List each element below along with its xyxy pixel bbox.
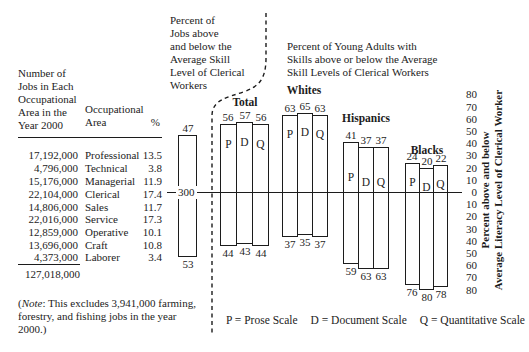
legend-item-prose: P = Prose Scale — [226, 314, 298, 327]
scale-letter-d: D — [301, 126, 309, 139]
value-label: 20 — [422, 156, 433, 167]
value-label: 37 — [285, 239, 296, 250]
value-label: 22 — [436, 153, 447, 164]
bar-blacks-quantitative: Q — [433, 165, 448, 287]
scale-letter-p: P — [225, 138, 231, 151]
bar-total-document: D — [236, 122, 253, 244]
value-label: 37 — [315, 239, 326, 250]
legend: P = Prose Scale D = Document Scale Q = Q… — [226, 314, 525, 327]
value-label: 63 — [315, 103, 326, 114]
table-row: 4,796,000 Technical 3.8 — [18, 162, 162, 175]
table-header-percent: % — [130, 116, 160, 129]
bar-hispanics-document: D — [358, 147, 374, 269]
table-row: 12,859,000 Operative 10.1 — [18, 226, 162, 239]
jobs-count: 15,176,000 — [18, 175, 78, 188]
table-row: 4,373,000 Laborer 3.4 — [18, 251, 162, 264]
y-axis-tick: 80 — [466, 284, 477, 296]
y-axis-tick: 10 — [466, 174, 477, 186]
table-row: 17,192,000 Professional 13.5 — [18, 149, 162, 162]
percent-share: 3.8 — [132, 162, 162, 175]
bar-jobs-above-value: 47 — [183, 123, 194, 134]
value-label: 41 — [346, 130, 357, 141]
legend-item-quantitative: Q = Quantitative Scale — [420, 314, 525, 327]
figure: Number of Jobs in Each Occupational Area… — [0, 0, 529, 352]
value-label: 43 — [240, 246, 251, 257]
y-axis-label: Percent above and below Average Literacy… — [479, 60, 507, 320]
value-label: 35 — [300, 237, 311, 248]
zero-reference-line — [167, 192, 462, 193]
y-axis-tick: 20 — [466, 162, 477, 174]
value-label: 76 — [407, 287, 418, 298]
jobs-count: 22,104,000 — [18, 188, 78, 201]
scale-letter-p: P — [287, 128, 293, 141]
footnote-note-word: Note — [22, 297, 43, 309]
y-axis-tick: 30 — [466, 223, 477, 235]
y-axis-tick: 50 — [466, 247, 477, 259]
bar-whites-quantitative: Q — [312, 115, 328, 237]
bar-whites-prose: P — [282, 115, 298, 237]
jobs-count: 4,796,000 — [18, 162, 78, 175]
footnote-text: : This excludes 3,941,000 farming, fores… — [18, 297, 196, 335]
occupational-area: Operative — [85, 226, 128, 239]
table-row: 22,016,000 Service 17.3 — [18, 213, 162, 226]
bar-blacks-prose: P — [405, 163, 420, 285]
jobs-count: 12,859,000 — [18, 226, 78, 239]
y-axis-tick: 30 — [466, 149, 477, 161]
occupational-area: Clerical — [85, 188, 120, 201]
left-chart-title: Percent of Jobs above and below the Aver… — [170, 14, 280, 92]
scale-letter-q: Q — [256, 138, 264, 151]
value-label: 65 — [300, 101, 311, 112]
bar-whites-document: D — [297, 113, 313, 235]
percent-share: 13.5 — [132, 149, 162, 162]
jobs-count: 17,192,000 — [18, 149, 78, 162]
footnote: (Note: This excludes 3,941,000 farming, … — [18, 297, 204, 336]
group-label-hispanics: Hispanics — [342, 112, 390, 125]
occupational-area: Laborer — [85, 251, 120, 264]
scale-letter-q: Q — [316, 128, 324, 141]
y-axis-tick: 60 — [466, 259, 477, 271]
value-label: 44 — [223, 248, 234, 259]
value-label: 37 — [376, 135, 387, 146]
value-label: 44 — [256, 248, 267, 259]
value-label: 63 — [361, 271, 372, 282]
scale-letter-p: P — [348, 171, 354, 184]
y-axis-tick: 40 — [466, 235, 477, 247]
percent-share: 17.3 — [132, 213, 162, 226]
value-label: 24 — [407, 151, 418, 162]
occupational-area: Managerial — [85, 175, 135, 188]
percent-share: 17.4 — [132, 188, 162, 201]
bar-hispanics-quantitative: Q — [373, 147, 389, 269]
legend-item-document: D = Document Scale — [311, 314, 407, 327]
percent-share: 3.4 — [132, 251, 162, 264]
scale-letter-q: Q — [377, 176, 385, 189]
bar-hispanics-prose: P — [343, 142, 359, 264]
y-axis-ticks: 807060504030201001020304050607080 — [450, 0, 477, 352]
bar-blacks-document: D — [419, 168, 434, 290]
value-label: 80 — [422, 292, 433, 303]
table-header-rule — [18, 137, 162, 138]
y-axis-tick: 70 — [466, 271, 477, 283]
y-axis-tick: 80 — [466, 88, 477, 100]
value-label: 37 — [361, 135, 372, 146]
value-label: 78 — [436, 289, 447, 300]
percent-share: 10.1 — [132, 226, 162, 239]
percent-share: 11.9 — [132, 175, 162, 188]
scale-letter-p: P — [409, 176, 415, 189]
value-label: 56 — [223, 112, 234, 123]
bar-total-quantitative: Q — [252, 124, 269, 246]
y-axis-tick: 60 — [466, 113, 477, 125]
occupational-area: Technical — [85, 162, 128, 175]
reference-score-label: 300 — [176, 186, 197, 199]
y-axis-tick: 50 — [466, 125, 477, 137]
group-label-whites: Whites — [287, 84, 322, 97]
y-axis-tick: 40 — [466, 137, 477, 149]
y-axis-tick: 70 — [466, 101, 477, 113]
table-row: 15,176,000 Managerial 11.9 — [18, 175, 162, 188]
jobs-count: 4,373,000 — [18, 251, 78, 264]
value-label: 63 — [376, 271, 387, 282]
jobs-count: 22,016,000 — [18, 213, 78, 226]
scale-letter-d: D — [362, 176, 370, 189]
table-total: 127,018,000 — [18, 268, 80, 281]
bar-jobs-below-value: 53 — [183, 259, 194, 270]
table-row-clerical: 22,104,000 Clerical 17.4 — [18, 188, 162, 201]
